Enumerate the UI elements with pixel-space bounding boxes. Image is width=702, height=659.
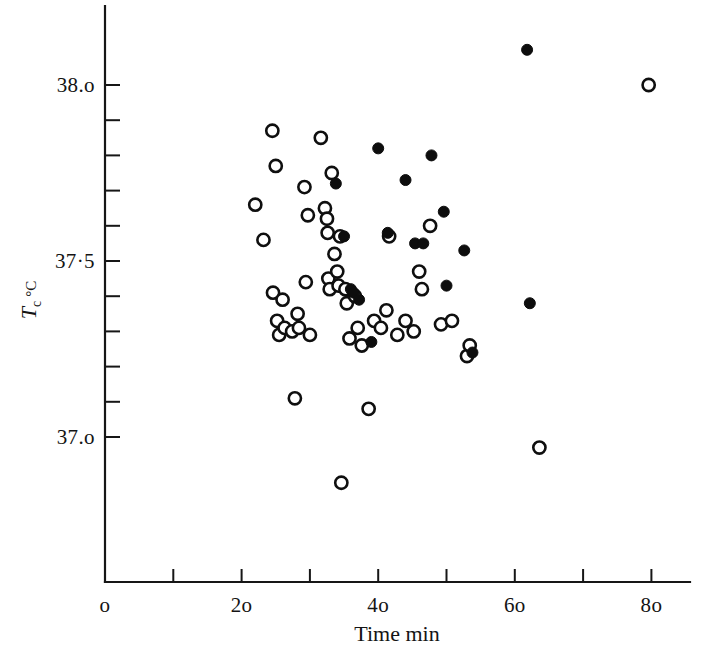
data-point [352,322,364,334]
data-point [426,150,437,161]
data-point [522,44,533,55]
data-point [382,227,393,238]
data-point [380,304,392,316]
data-point [302,209,314,221]
data-point [354,294,365,305]
data-point [343,332,355,344]
data-point [424,220,436,232]
data-point [467,347,478,358]
y-tick-label: 37·5 [55,249,95,273]
data-point [418,238,429,249]
data-point [441,280,452,291]
data-point [643,79,655,91]
data-point [399,315,411,327]
y-axis-tick-labels: 37.o37·538.o [55,73,95,449]
data-point [339,231,350,242]
data-point [266,125,278,137]
y-axis-title-unit: °C [23,281,39,297]
data-point [326,167,338,179]
data-point [276,294,288,306]
data-point [331,265,343,277]
data-point [459,245,470,256]
data-point [373,143,384,154]
data-point [300,276,312,288]
series-filled-circles [330,44,535,358]
data-point [446,315,458,327]
data-point [298,181,310,193]
data-point [391,329,403,341]
y-axis-title-subscript: c [29,301,44,307]
x-axis-tick-labels: o2o4o6o8o [100,593,663,617]
data-point [400,175,411,186]
y-axis-ticks [105,85,120,437]
data-point [413,265,425,277]
data-point [375,322,387,334]
plot-canvas: o2o4o6o8o 37.o37·538.o Time min Tc°C [0,0,702,659]
data-point [363,403,375,415]
data-point [416,283,428,295]
data-point [438,206,449,217]
svg-text:Tc°C: Tc°C [16,281,44,319]
data-point [330,178,341,189]
data-point [328,248,340,260]
x-tick-label: 6o [504,593,526,617]
x-tick-label: 8o [640,593,662,617]
x-tick-label: 4o [367,593,389,617]
data-point [524,298,535,309]
data-point [289,392,301,404]
x-tick-label: o [100,593,111,617]
data-point [270,160,282,172]
y-tick-label: 37.o [57,425,95,449]
y-axis-title: Tc°C [16,281,44,319]
data-point [322,227,334,239]
scatter-plot-figure: o2o4o6o8o 37.o37·538.o Time min Tc°C [0,0,702,659]
data-point [335,477,347,489]
x-axis-ticks [105,569,651,582]
data-point [315,132,327,144]
data-point [366,336,377,347]
data-point [257,234,269,246]
data-point [304,329,316,341]
data-point [408,325,420,337]
y-tick-label: 38.o [57,73,95,97]
data-point [321,213,333,225]
x-axis-title: Time min [354,621,439,646]
x-tick-label: 2o [231,593,253,617]
data-point [249,199,261,211]
data-point [292,308,304,320]
data-point [533,441,545,453]
